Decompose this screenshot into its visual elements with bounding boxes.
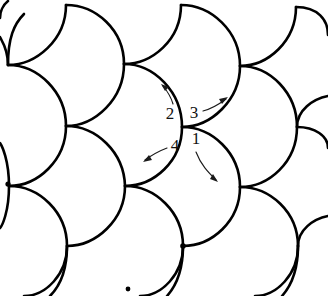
tiling-diagram: 1 2 3 4: [0, 0, 328, 296]
tile-curve: [124, 5, 181, 64]
marker-3-label: 3: [190, 103, 199, 122]
tile-curve: [125, 186, 183, 246]
tile-curve: [0, 1, 8, 18]
tile-curve: [0, 143, 9, 186]
lattice-node-mark: [5, 181, 10, 186]
lattice-node-mark: [126, 287, 131, 292]
marker-4-label: 4: [171, 136, 180, 155]
tile-curve: [66, 64, 124, 126]
tile-curve: [67, 186, 125, 246]
tile-curve: [297, 96, 328, 127]
marker-2-label: 2: [166, 104, 175, 123]
tile-curve: [9, 186, 67, 246]
tile-curve: [282, 246, 298, 296]
tile-curve: [66, 126, 125, 186]
tile-curve: [66, 5, 124, 64]
tile-curve: [240, 187, 298, 246]
tile-curve: [140, 246, 183, 296]
tile-curve: [255, 246, 298, 296]
tile-curve: [181, 5, 240, 66]
tile-curve: [50, 246, 67, 296]
tile-curve: [297, 127, 328, 148]
tile-curve: [296, 7, 328, 35]
tile-curve: [0, 37, 8, 65]
annotation-group: 1 2 3 4: [143, 84, 228, 182]
tile-curve-group: [0, 1, 328, 296]
curved-tiling-figure: 1 2 3 4: [0, 0, 328, 296]
tile-curve: [167, 246, 183, 296]
marker-1-label: 1: [192, 129, 201, 148]
marker-2: 2: [161, 84, 174, 123]
lattice-node-mark: [180, 243, 186, 249]
tile-curve: [8, 5, 66, 65]
tile-curve: [298, 216, 328, 246]
tile-curve: [240, 127, 297, 187]
tile-curve: [240, 66, 297, 127]
tile-curve: [183, 187, 240, 246]
tile-curve: [24, 246, 67, 296]
tile-curve: [9, 126, 66, 186]
tile-curve: [8, 65, 66, 126]
tile-curve: [240, 7, 296, 66]
tile-curve: [8, 14, 24, 65]
tile-curve: [0, 186, 9, 228]
